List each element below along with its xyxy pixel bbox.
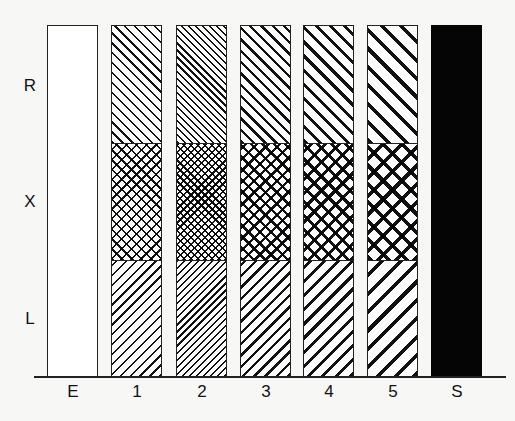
segment-l [177,261,226,376]
y-label-l: L [22,309,38,329]
segment-x [177,144,226,261]
bar-s [431,25,482,377]
segment-r [304,26,353,144]
segment-x [304,144,353,261]
bar-4 [303,25,354,377]
bar-e [47,25,98,377]
x-label-s: S [431,382,483,402]
segment-r [241,26,290,144]
segment-l [112,261,161,376]
bar-5 [367,25,418,377]
x-label-5: 5 [367,382,419,402]
bar-1 [111,25,162,377]
segment-l [304,261,353,376]
x-label-e: E [47,382,99,402]
bar-2 [176,25,227,377]
baseline-axis [34,376,506,378]
segment-r [112,26,161,144]
x-label-3: 3 [240,382,292,402]
bar-3 [240,25,291,377]
segment-r [177,26,226,144]
x-label-2: 2 [176,382,228,402]
segment-x [368,144,417,261]
x-label-1: 1 [111,382,163,402]
y-label-r: R [22,76,38,96]
segment-r [368,26,417,144]
segment-l [368,261,417,376]
segment-x [241,144,290,261]
y-label-x: X [22,192,38,212]
x-label-4: 4 [303,382,355,402]
segment-x [112,144,161,261]
segment-l [241,261,290,376]
